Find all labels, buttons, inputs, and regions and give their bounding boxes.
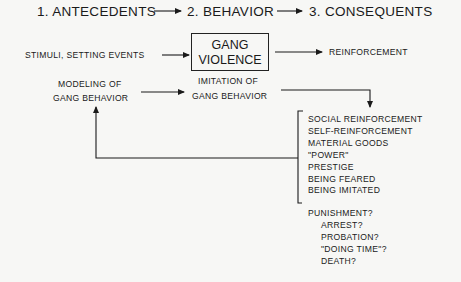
list-item: SOCIAL REINFORCEMENT <box>308 114 423 126</box>
list-item: MATERIAL GOODS <box>308 138 423 150</box>
imitation-line2: GANG BEHAVIOR <box>192 91 267 101</box>
list-item: SELF-REINFORCEMENT <box>308 126 423 138</box>
imitation-line1: IMITATION OF <box>198 76 258 86</box>
punishment-list: PUNISHMENT? ARREST? PROBATION? "DOING TI… <box>308 208 387 268</box>
consequent-label: REINFORCEMENT <box>329 47 408 57</box>
list-item: "DOING TIME"? <box>308 244 387 256</box>
list-item: "POWER" <box>308 150 423 162</box>
modeling-line2: GANG BEHAVIOR <box>53 93 128 103</box>
reinforcer-list: SOCIAL REINFORCEMENT SELF-REINFORCEMENT … <box>308 114 423 197</box>
list-item: BEING IMITATED <box>308 185 423 197</box>
list-item: PROBATION? <box>308 232 387 244</box>
modeling-line1: MODELING OF <box>58 79 121 89</box>
list-item: DEATH? <box>308 256 387 268</box>
step-antecedents: 1. ANTECEDENTS <box>37 4 156 19</box>
step-consequents: 3. CONSEQUENTS <box>309 4 432 19</box>
step-behavior: 2. BEHAVIOR <box>187 4 274 19</box>
punishment-label: PUNISHMENT? <box>308 208 387 220</box>
list-item: BEING FEARED <box>308 174 423 186</box>
list-item: ARREST? <box>308 220 387 232</box>
behavior-box: GANG VIOLENCE <box>191 33 269 71</box>
antecedent-label: STIMULI, SETTING EVENTS <box>25 50 145 60</box>
behavior-line1: GANG <box>192 38 268 53</box>
behavior-line2: VIOLENCE <box>192 53 268 68</box>
list-item: PRESTIGE <box>308 162 423 174</box>
